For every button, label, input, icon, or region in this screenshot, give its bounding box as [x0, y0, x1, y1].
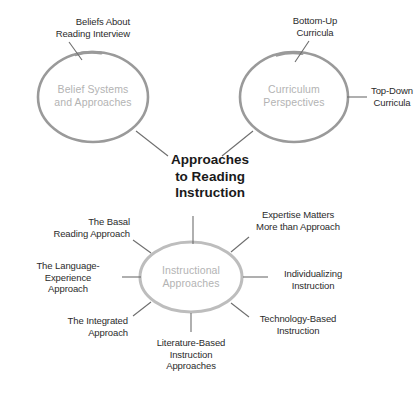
leaf-label-bottom-up-curricula: Bottom-Up Curricula: [277, 15, 353, 38]
leaf-label-top-down-curricula: Top-Down Curricula: [366, 85, 418, 108]
connector-beliefs-about-reading-interview: [69, 42, 82, 60]
connector-technology-based-instruction: [231, 303, 249, 317]
connector-the-basal-reading-approach: [133, 240, 151, 253]
curriculum-perspectives-circle-overlap: [277, 53, 302, 55]
connector-expertise-matters-more-than-approach: [231, 237, 249, 252]
leaf-label-technology-based-instruction: Technology-Based Instruction: [249, 313, 347, 336]
leaf-label-individualizing-instruction: Individualizing Instruction: [267, 268, 359, 291]
connector-the-integrated-approach: [133, 302, 151, 316]
node-label-curriculum-perspectives: Curriculum Perspectives: [244, 83, 344, 109]
leaf-label-the-integrated-approach: The Integrated Approach: [30, 315, 128, 338]
concept-map-diagram: Approaches to Reading Instruction Belief…: [0, 0, 418, 399]
leaf-label-the-basal-reading-approach: The Basal Reading Approach: [22, 216, 130, 239]
leaf-label-beliefs-about-reading-interview: Beliefs About Reading Interview: [10, 16, 130, 39]
page-title: Approaches to Reading Instruction: [150, 152, 270, 202]
leaf-label-expertise-matters-more-than-approach: Expertise Matters More than Approach: [243, 209, 353, 232]
belief-systems-circle-overlap: [76, 52, 101, 54]
leaf-label-literature-based-instruction-approaches: Literature-Based Instruction Approaches: [139, 337, 243, 372]
node-label-belief-systems: Belief Systems and Approaches: [43, 83, 143, 109]
node-label-instructional-approaches: Instructional Approaches: [141, 264, 241, 290]
leaf-label-the-language-experience-approach: The Language- Experience Approach: [18, 260, 118, 295]
